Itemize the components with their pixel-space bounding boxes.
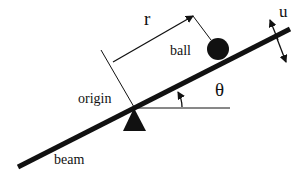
origin-label: origin (78, 91, 111, 107)
theta-label: θ (215, 79, 224, 101)
beam-bar (18, 29, 290, 167)
r-label: r (144, 8, 150, 30)
beam-label: beam (54, 152, 84, 168)
u-label: u (279, 2, 288, 22)
u-force-arrow-down (276, 36, 286, 62)
ball-label: ball (170, 43, 191, 59)
ball-perpendicular-line (193, 16, 211, 40)
theta-angle-arrow (178, 92, 182, 107)
ball-beam-diagram (0, 0, 306, 179)
ball-icon (207, 38, 229, 60)
